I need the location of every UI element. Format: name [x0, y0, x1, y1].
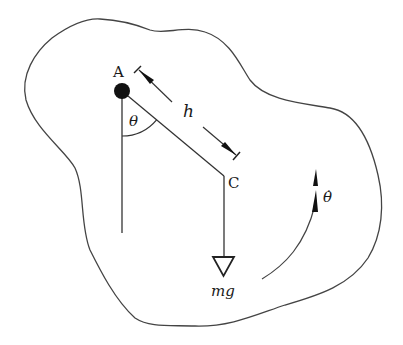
angle-arc	[122, 120, 157, 136]
label-center-c: C	[228, 174, 239, 192]
label-angular-velocity: θ̇	[323, 188, 332, 206]
angular-velocity-arrowhead-2-icon	[313, 169, 318, 186]
angular-velocity-arrow	[262, 205, 315, 279]
weight-arrow-icon	[213, 257, 234, 276]
label-distance-h: h	[183, 101, 194, 121]
rigid-body-outline	[25, 19, 382, 326]
arrowhead-down-icon	[221, 142, 236, 155]
angular-velocity-arrowhead-icon	[312, 190, 318, 212]
label-weight-mg: mg	[211, 282, 235, 300]
arrowhead-up-icon	[139, 70, 154, 84]
pendulum-diagram: A C h θ mg θ̇	[0, 0, 403, 345]
pivot-point-a	[114, 83, 130, 99]
label-angle-theta: θ	[129, 112, 138, 130]
label-pivot-a: A	[112, 63, 124, 81]
